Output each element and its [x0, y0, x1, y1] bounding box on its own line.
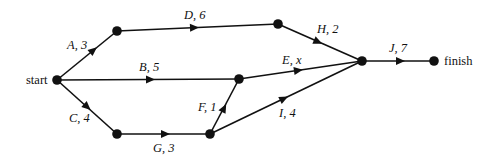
label-f: F, 1 — [197, 100, 217, 114]
node-start — [52, 75, 62, 85]
label-i: I, 4 — [278, 106, 296, 120]
label-a: A, 3 — [66, 38, 87, 52]
label-b: B, 5 — [139, 60, 159, 74]
edges — [57, 24, 434, 134]
label-c: C, 4 — [69, 111, 90, 125]
node-4 — [112, 129, 122, 139]
arrow-icon-h — [312, 36, 323, 47]
node-5 — [205, 129, 215, 139]
node-finish — [429, 56, 439, 66]
arrow-icon-j — [396, 57, 405, 65]
arrow-icon-f — [218, 102, 229, 114]
label-j: J, 7 — [389, 41, 408, 55]
label-e: E, x — [281, 53, 302, 67]
start-label: start — [26, 73, 48, 87]
node-2 — [273, 19, 283, 29]
finish-label: finish — [444, 54, 473, 68]
label-d: D, 6 — [183, 8, 206, 22]
label-h: H, 2 — [316, 22, 339, 36]
node-1 — [112, 26, 122, 36]
arrow-icon-d — [190, 23, 199, 31]
arrow-icon-g — [161, 130, 170, 138]
arrow-icon-b — [146, 75, 155, 83]
node-3 — [234, 74, 244, 84]
node-6 — [357, 56, 367, 66]
activity-network-diagram: start finish A, 3 B, 5 C, 4 D, 6 E, x F,… — [0, 0, 494, 160]
arrow-icon-i — [278, 93, 290, 104]
label-g: G, 3 — [153, 141, 175, 155]
